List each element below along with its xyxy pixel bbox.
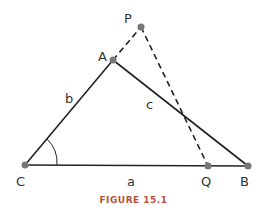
label-a: A [98, 50, 107, 63]
label-b: b [65, 92, 73, 105]
figure-caption: FIGURE 15.1 [0, 195, 267, 205]
label-p: P [124, 12, 132, 25]
segment-ap [113, 27, 141, 60]
label-c-vertex: C [16, 175, 25, 188]
point-q [205, 163, 212, 170]
point-p [138, 24, 145, 31]
label-c: c [146, 98, 153, 111]
label-a-side: a [127, 175, 135, 188]
side-b [25, 60, 113, 165]
solid-lines [25, 60, 248, 166]
label-q: Q [201, 175, 211, 188]
label-b-vertex: B [240, 175, 249, 188]
side-a [25, 165, 248, 166]
vertex-points [22, 24, 252, 170]
point-c [22, 162, 29, 169]
angle-c-arc [47, 139, 57, 165]
point-b [245, 163, 252, 170]
point-a [110, 57, 117, 64]
side-c [113, 60, 248, 166]
